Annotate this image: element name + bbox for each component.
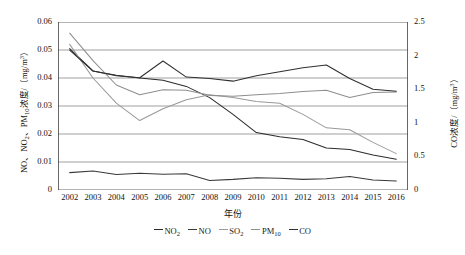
legend-label: PM10 [262,226,281,236]
legend-swatch-line [219,229,228,230]
series-line-so2 [70,44,397,153]
y-right-title-sup: 3 [448,83,455,86]
y-tick-left: 0.03 [18,101,52,110]
legend-label-subscript: 2 [177,230,180,237]
y-tick-right: 2 [414,51,444,60]
series-line-no2 [70,49,397,160]
y-tick-right: 1.5 [414,84,444,93]
y-tick-left: 0.02 [18,129,52,138]
legend-swatch-line [289,229,298,230]
y-tick-right: 0.5 [414,151,444,160]
y-right-title-pre: CO浓度/（mg/m [449,87,459,148]
y-tick-right: 2.5 [414,17,444,26]
y-tick-left: 0.01 [18,157,52,166]
legend-label: NO [199,226,211,236]
x-axis-title: 年份 [0,207,465,220]
legend-swatch-line [251,229,260,230]
plot-area [58,22,408,190]
series-line-co [70,50,397,91]
y-tick-left: 0.04 [18,73,52,82]
legend-label-subscript: 2 [240,230,243,237]
y-tick-right: 1 [414,118,444,127]
legend-swatch-line [188,229,197,230]
y-tick-left: 0.05 [18,45,52,54]
legend-label-subscript: 10 [274,230,281,237]
chart-legend: NO2NOSO2PM10CO [0,224,465,236]
chart-svg [58,22,408,190]
legend-item-no2[interactable]: NO2 [154,225,180,236]
legend-swatch-line [154,229,163,230]
y-axis-right-title: CO浓度/（mg/m3） [447,41,459,181]
x-tick-label: 2016 [379,192,413,202]
legend-item-no[interactable]: NO [188,225,211,236]
series-line-pm10 [70,33,397,97]
y-left-title-sup: 3 [18,56,25,59]
legend-item-co[interactable]: CO [289,225,311,236]
series-line-no [70,171,397,181]
legend-label: SO2 [229,226,243,236]
legend-item-pm10[interactable]: PM10 [251,225,280,236]
y-tick-left: 0 [18,185,52,194]
legend-label: NO2 [164,226,180,236]
chart-figure: NO、NO2、PM10浓度/（mg/m3） CO浓度/（mg/m3） 年份 00… [0,0,465,255]
y-tick-right: 0 [414,185,444,194]
y-tick-left: 0.06 [18,17,52,26]
legend-label: CO [299,226,311,236]
legend-item-so2[interactable]: SO2 [219,225,244,236]
